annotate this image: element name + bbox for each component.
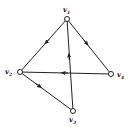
vertex-v1: [65, 17, 70, 22]
edge-v2-v3: [20, 72, 73, 111]
vertex-v2: [18, 70, 23, 75]
edge-v1-v2: [20, 19, 67, 72]
directed-graph: v1 v2 v3 v4: [0, 0, 133, 130]
label-v2: v2: [5, 67, 12, 77]
label-v1: v1: [63, 5, 70, 15]
edge-v4-v2: [20, 72, 111, 74]
edge-v3-v1: [67, 19, 73, 111]
label-v3: v3: [69, 115, 76, 125]
edge-v1-v4: [67, 19, 111, 74]
vertex-v4: [109, 72, 114, 77]
vertex-v3: [71, 109, 76, 114]
label-v4: v4: [117, 70, 124, 80]
